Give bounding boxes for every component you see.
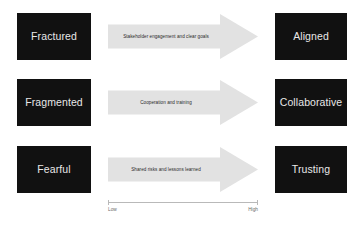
from-state-label-1: Fractured xyxy=(31,31,77,42)
to-state-label-3: Trusting xyxy=(292,164,330,175)
from-state-label-3: Fearful xyxy=(37,164,70,175)
maturity-scale-axis: Low High xyxy=(108,198,258,220)
axis-cap-left xyxy=(108,200,109,205)
from-state-label-2: Fragmented xyxy=(25,97,83,108)
arrow-right-icon xyxy=(108,13,258,60)
from-state-box-1: Fractured xyxy=(17,13,91,60)
to-state-box-3: Trusting xyxy=(275,146,347,193)
to-state-label-2: Collaborative xyxy=(280,97,343,108)
to-state-box-2: Collaborative xyxy=(275,79,347,126)
axis-cap-right xyxy=(257,200,258,205)
diagram-canvas: Fractured Stakeholder engagement and cle… xyxy=(0,0,364,226)
to-state-label-1: Aligned xyxy=(293,31,329,42)
from-state-box-3: Fearful xyxy=(17,146,91,193)
transition-arrow-1: Stakeholder engagement and clear goals xyxy=(108,13,258,60)
axis-label-high: High xyxy=(248,208,258,213)
from-state-box-2: Fragmented xyxy=(17,79,91,126)
to-state-box-1: Aligned xyxy=(275,13,347,60)
axis-label-low: Low xyxy=(108,208,117,213)
axis-line xyxy=(108,202,258,203)
transition-arrow-3: Shared risks and lessons learned xyxy=(108,146,258,193)
arrow-right-icon xyxy=(108,146,258,193)
transition-arrow-2: Cooperation and training xyxy=(108,79,258,126)
arrow-right-icon xyxy=(108,79,258,126)
